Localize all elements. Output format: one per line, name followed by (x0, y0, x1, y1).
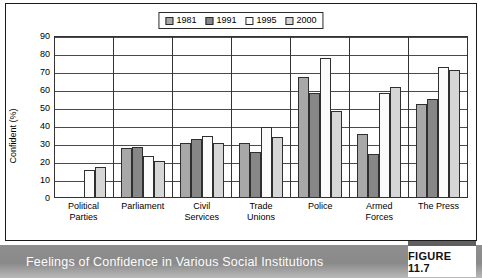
x-label-parliament: Parliament (113, 201, 172, 223)
bar (357, 134, 368, 197)
x-label-line: The Press (409, 201, 468, 212)
bar (250, 152, 261, 197)
bar (416, 104, 427, 197)
x-label-line: Parliament (113, 201, 172, 212)
x-label-the-press: The Press (409, 201, 468, 223)
bar-group (350, 37, 409, 197)
bar (298, 77, 309, 197)
bar (390, 87, 401, 197)
bar (95, 167, 106, 197)
bar (379, 93, 390, 197)
legend-item-1995: 1995 (246, 16, 277, 25)
x-label-line: Forces (350, 212, 409, 223)
x-label-line: Armed (350, 201, 409, 212)
bar (261, 127, 272, 197)
legend-label-2000: 2000 (297, 16, 317, 25)
bar (331, 111, 342, 197)
bar (191, 139, 202, 198)
caption-band: Feelings of Confidence in Various Social… (0, 245, 482, 278)
bar-group (232, 37, 291, 197)
bar-group (173, 37, 232, 197)
y-axis-title: Confident (%) (8, 96, 18, 176)
caption-text: Feelings of Confidence in Various Social… (26, 255, 323, 269)
bar (427, 99, 438, 197)
y-tick-30: 30 (40, 139, 50, 149)
legend-swatch-1995 (246, 17, 254, 25)
bar-group (114, 37, 173, 197)
bar (84, 170, 95, 197)
y-tick-80: 80 (40, 49, 50, 59)
x-label-line: Political (54, 201, 113, 212)
bar (154, 161, 165, 197)
legend-swatch-1991 (205, 17, 213, 25)
y-tick-90: 90 (40, 31, 50, 41)
y-tick-0: 0 (45, 193, 50, 203)
x-label-police: Police (291, 201, 350, 223)
y-tick-50: 50 (40, 103, 50, 113)
bar (368, 154, 379, 197)
y-axis-tick-labels: 9080706050403020100 (28, 36, 50, 198)
x-label-civil-services: CivilServices (172, 201, 231, 223)
y-tick-60: 60 (40, 85, 50, 95)
bar (239, 143, 250, 197)
bars-layer (55, 37, 467, 197)
x-label-armed-forces: ArmedForces (350, 201, 409, 223)
bar (309, 93, 320, 197)
bar (202, 136, 213, 197)
x-label-line: Police (291, 201, 350, 212)
y-tick-40: 40 (40, 121, 50, 131)
bar-group (55, 37, 114, 197)
figure-badge: FIGURE 11.7 (408, 246, 476, 277)
figure-label: FIGURE 11.7 (408, 250, 476, 274)
chart-legend: 1981199119952000 (158, 12, 323, 29)
legend-swatch-1981 (165, 17, 173, 25)
bar (121, 148, 132, 197)
y-tick-10: 10 (40, 175, 50, 185)
x-axis-category-labels: PoliticalPartiesParliamentCivilServicesT… (54, 201, 468, 223)
x-label-line: Parties (54, 212, 113, 223)
x-label-trade-unions: TradeUnions (231, 201, 290, 223)
bar (132, 147, 143, 197)
bar (143, 156, 154, 197)
bar-group (409, 37, 467, 197)
y-tick-20: 20 (40, 157, 50, 167)
legend-label-1995: 1995 (257, 16, 277, 25)
bar-group (291, 37, 350, 197)
x-label-line: Trade (231, 201, 290, 212)
legend-label-1991: 1991 (216, 16, 236, 25)
chart-frame: 1981199119952000 Confident (%) 908070605… (5, 3, 477, 241)
legend-item-2000: 2000 (286, 16, 317, 25)
legend-item-1991: 1991 (205, 16, 236, 25)
x-label-line: Civil (172, 201, 231, 212)
bar (180, 143, 191, 197)
x-label-line: Unions (231, 212, 290, 223)
plot-area (54, 36, 468, 198)
plot-wrapper: Confident (%) 9080706050403020100 Politi… (6, 36, 478, 242)
y-tick-70: 70 (40, 67, 50, 77)
figure-root: 1981199119952000 Confident (%) 908070605… (0, 0, 482, 278)
bar (449, 70, 460, 197)
legend-item-1981: 1981 (165, 16, 196, 25)
bar (213, 143, 224, 197)
legend-label-1981: 1981 (176, 16, 196, 25)
bar (272, 137, 283, 197)
x-label-political-parties: PoliticalParties (54, 201, 113, 223)
bar (320, 58, 331, 197)
x-label-line: Services (172, 212, 231, 223)
bar (438, 67, 449, 197)
legend-swatch-2000 (286, 17, 294, 25)
